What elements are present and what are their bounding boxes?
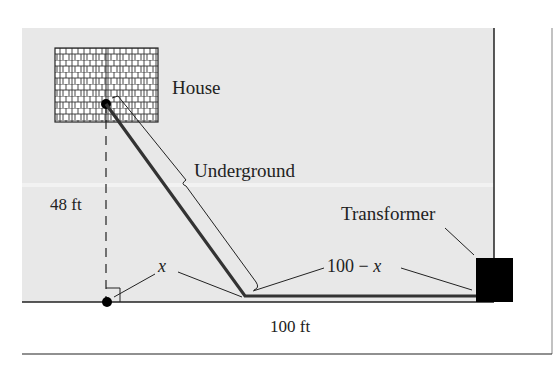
x-label: x xyxy=(157,256,166,276)
house-label: House xyxy=(172,77,221,98)
transformer-icon xyxy=(476,258,513,302)
underground-label: Underground xyxy=(194,160,295,181)
total-width-label: 100 ft xyxy=(270,317,310,336)
transformer-label: Transformer xyxy=(341,203,436,224)
scan-band xyxy=(22,183,494,187)
remaining-length-label: 100 − x xyxy=(327,256,381,276)
height-label: 48 ft xyxy=(50,195,82,214)
power-line-diagram: House Underground 48 ft x 100 − x Transf… xyxy=(0,0,553,380)
ground-point-dot xyxy=(102,297,112,307)
